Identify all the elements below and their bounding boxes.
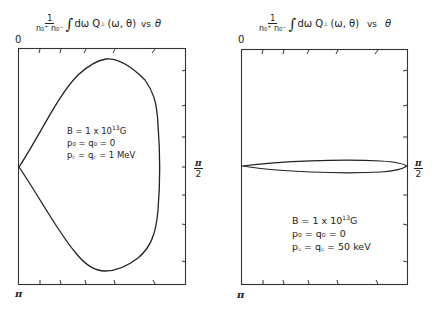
panel-50-kev: 1 n₀⁺ n₀⁻ ∫ dω Q⊥ (ω, θ) vs θ 0 π π 2	[221, 0, 433, 309]
param-b-field: B = 1 x 1013G	[292, 211, 371, 227]
top-ticks	[39, 49, 155, 53]
param-p0-q0: p₀ = q₀ = 0	[67, 137, 135, 149]
param-pc-qc: p꜀ = q꜀ = 1 MeV	[67, 149, 135, 161]
plot-area	[221, 0, 433, 309]
bottom-ticks	[263, 280, 378, 284]
emission-curve	[19, 59, 160, 271]
parameter-block: B = 1 x 1013G p₀ = q₀ = 0 p꜀ = q꜀ = 1 Me…	[67, 122, 135, 161]
top-ticks	[262, 50, 378, 54]
param-pc-qc: p꜀ = q꜀ = 50 keV	[292, 240, 371, 253]
parameter-block: B = 1 x 1013G p₀ = q₀ = 0 p꜀ = q꜀ = 50 k…	[292, 211, 371, 253]
param-b-field: B = 1 x 1013G	[67, 122, 135, 137]
bottom-ticks	[40, 280, 155, 284]
param-p0-q0: p₀ = q₀ = 0	[292, 227, 371, 240]
emission-curve	[242, 160, 407, 173]
panel-1-mev: 1 n₀⁺ n₀⁻ ∫ dω Q⊥ (ω, θ) vs θ 0 π π 2	[0, 0, 216, 309]
plot-frame	[19, 49, 186, 285]
